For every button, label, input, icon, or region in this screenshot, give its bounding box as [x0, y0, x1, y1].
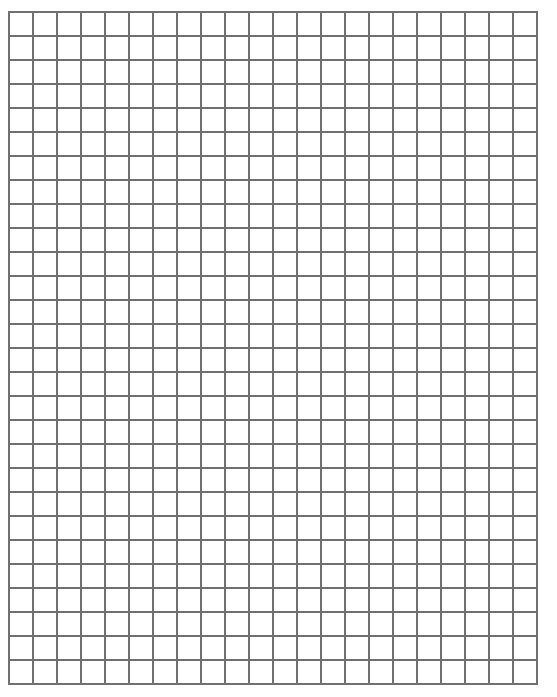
- graph-paper-grid: [8, 11, 538, 685]
